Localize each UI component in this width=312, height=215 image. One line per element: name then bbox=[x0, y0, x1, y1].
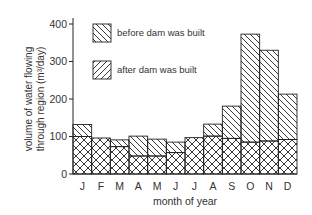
bar-before-excess bbox=[129, 136, 148, 156]
bar-before-excess bbox=[148, 139, 167, 156]
y-axis-label-line1: volume of water flowing bbox=[23, 47, 34, 152]
x-axis-label: month of year bbox=[153, 195, 218, 207]
bar-overlap bbox=[278, 140, 297, 175]
legend-label: after dam was built bbox=[117, 64, 197, 75]
x-tick-label: D bbox=[284, 180, 292, 192]
y-tick-label: 200 bbox=[49, 93, 67, 105]
bar-before-excess bbox=[222, 106, 241, 138]
x-tick-label: N bbox=[265, 180, 273, 192]
bars-group: JFMAMJJASOND bbox=[73, 34, 297, 192]
legend-swatch-after bbox=[93, 61, 111, 79]
bar-before-excess bbox=[73, 125, 92, 137]
x-tick-label: J bbox=[192, 180, 197, 192]
x-tick-label: F bbox=[98, 180, 104, 192]
bar-overlap bbox=[204, 136, 223, 174]
bar-overlap bbox=[241, 142, 260, 174]
bar-before-excess bbox=[110, 140, 129, 147]
bar-overlap bbox=[166, 153, 185, 174]
x-tick-label: J bbox=[173, 180, 178, 192]
x-tick-label: A bbox=[135, 180, 142, 192]
bar-before-excess bbox=[278, 94, 297, 139]
y-tick-label: 300 bbox=[49, 55, 67, 67]
y-tick-label: 100 bbox=[49, 130, 67, 142]
x-tick-label: O bbox=[246, 180, 254, 192]
x-tick-label: M bbox=[153, 180, 162, 192]
bar-overlap bbox=[222, 138, 241, 174]
bar-before-excess bbox=[166, 142, 185, 153]
bar-overlap bbox=[185, 138, 204, 174]
legend: before dam was builtafter dam was built bbox=[93, 24, 205, 79]
bar-overlap bbox=[260, 141, 279, 174]
y-tick-label: 400 bbox=[49, 18, 67, 30]
bar-overlap bbox=[92, 138, 111, 174]
y-axis-label-line2: through region (m³/day) bbox=[35, 47, 46, 152]
bar-overlap bbox=[148, 156, 167, 174]
bar-overlap bbox=[129, 156, 148, 174]
bar-overlap bbox=[110, 147, 129, 174]
y-tick-label: 0 bbox=[61, 168, 67, 180]
x-tick-label: S bbox=[228, 180, 235, 192]
chart: JFMAMJJASOND 0100200300400month of yearv… bbox=[0, 0, 312, 215]
legend-label: before dam was built bbox=[117, 27, 205, 38]
x-tick-label: A bbox=[209, 180, 216, 192]
bar-before-excess bbox=[260, 50, 279, 141]
x-tick-label: J bbox=[80, 180, 85, 192]
bar-before-excess bbox=[241, 34, 260, 142]
bar-before-excess bbox=[204, 124, 223, 136]
x-tick-label: M bbox=[115, 180, 124, 192]
bar-overlap bbox=[73, 137, 92, 175]
legend-swatch-before bbox=[93, 24, 111, 42]
